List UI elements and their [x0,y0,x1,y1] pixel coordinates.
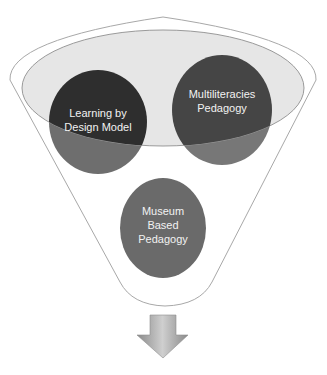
svg-text:Pedagogy: Pedagogy [197,102,247,114]
svg-text:Multiliteracies: Multiliteracies [189,88,256,100]
svg-text:Learning by: Learning by [69,107,127,119]
svg-text:Pedagogy: Pedagogy [138,233,188,245]
svg-text:Museum: Museum [142,205,184,217]
svg-text:Design Model: Design Model [64,121,131,133]
funnel-diagram: Learning by Design Model Multiliteracies… [0,0,327,375]
svg-text:Based: Based [147,219,178,231]
down-arrow-icon [137,315,188,358]
